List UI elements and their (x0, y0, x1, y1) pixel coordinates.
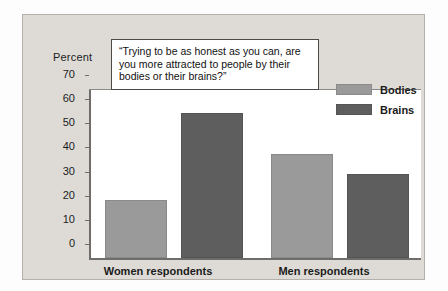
y-tick-label: 30 (45, 165, 75, 177)
chart-screenshot: Percent 706050403020100 Women respondent… (0, 0, 448, 291)
bar-men-respondents-brains (347, 174, 409, 259)
y-tick-label: 40 (45, 140, 75, 152)
y-tick-label: 0 (45, 237, 75, 249)
legend-label-bodies: Bodies (380, 84, 417, 96)
bar-men-respondents-bodies (271, 154, 333, 258)
chart-panel: Percent 706050403020100 Women respondent… (22, 14, 425, 280)
question-callout: “Trying to be as honest as you can, are … (111, 39, 319, 90)
chart-legend: Bodies Brains (336, 81, 417, 121)
y-tick-label: 60 (45, 92, 75, 104)
legend-swatch-brains (336, 104, 372, 115)
x-axis-label: Men respondents (241, 265, 407, 277)
y-tick-label: 70 (45, 68, 75, 80)
y-tick-label: 10 (45, 213, 75, 225)
bar-women-respondents-brains (181, 113, 243, 258)
y-axis-title: Percent (53, 51, 92, 63)
x-axis-label: Women respondents (75, 265, 241, 277)
legend-item-bodies: Bodies (336, 81, 417, 98)
bar-women-respondents-bodies (105, 200, 167, 258)
legend-item-brains: Brains (336, 101, 417, 118)
legend-label-brains: Brains (380, 104, 414, 116)
y-tick-mark (85, 75, 89, 76)
y-tick-label: 20 (45, 189, 75, 201)
legend-swatch-bodies (336, 84, 372, 95)
y-tick-label: 50 (45, 116, 75, 128)
